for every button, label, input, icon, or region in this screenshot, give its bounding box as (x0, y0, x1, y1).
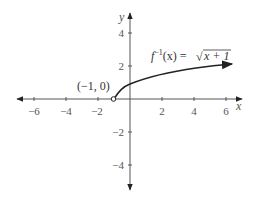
y-axis-label: y (118, 10, 125, 24)
y-tick-label: −2 (112, 126, 124, 138)
x-tick-label: −4 (60, 105, 72, 117)
x-tick-label: −2 (91, 105, 103, 117)
x-tick-label: 6 (223, 105, 229, 117)
y-tick-label: 2 (119, 60, 125, 72)
svg-text:f−1(x) =: f−1(x) = (151, 48, 187, 63)
x-tick-label: 2 (159, 105, 165, 117)
y-tick-label: 4 (119, 27, 125, 39)
open-point (111, 97, 116, 102)
x-tick-label: 4 (191, 105, 197, 117)
svg-text:x + 1: x + 1 (203, 49, 229, 63)
svg-text:√: √ (196, 50, 203, 64)
graph: −6 −4 −2 2 4 6 4 2 −2 −4 x y (−1, 0) f−1… (0, 0, 254, 208)
function-curve (114, 64, 232, 99)
x-axis-label: x (235, 99, 242, 113)
point-label: (−1, 0) (77, 79, 110, 93)
y-tick-label: −4 (112, 159, 124, 171)
function-label: f−1(x) = √ x + 1 (151, 48, 231, 64)
x-tick-label: −6 (28, 105, 40, 117)
